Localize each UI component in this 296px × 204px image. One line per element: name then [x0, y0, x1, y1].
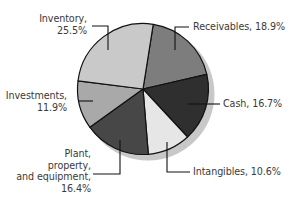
label-receivables-text: Receivables, 18.9%	[193, 21, 285, 33]
label-inventory-name: Inventory,	[39, 13, 87, 25]
label-plant: Plant, property, and equipment, 16.4%	[16, 148, 91, 194]
label-investments: Investments, 11.9%	[6, 90, 67, 113]
label-cash-text: Cash, 16.7%	[223, 98, 282, 110]
label-investments-value: 11.9%	[6, 102, 67, 114]
label-inventory: Inventory, 25.5%	[39, 13, 87, 36]
label-investments-name: Investments,	[6, 90, 67, 102]
label-inventory-value: 25.5%	[39, 25, 87, 37]
label-plant-line3: and equipment,	[16, 171, 91, 183]
pie-slice-inventory	[78, 24, 153, 89]
pie-slices	[78, 24, 209, 155]
label-receivables: Receivables, 18.9%	[193, 21, 285, 33]
label-plant-value: 16.4%	[16, 183, 91, 195]
label-cash: Cash, 16.7%	[223, 98, 282, 110]
label-plant-line2: property,	[16, 160, 91, 172]
label-plant-line1: Plant,	[16, 148, 91, 160]
label-intangibles: Intangibles, 10.6%	[193, 166, 281, 178]
label-intangibles-text: Intangibles, 10.6%	[193, 166, 281, 178]
